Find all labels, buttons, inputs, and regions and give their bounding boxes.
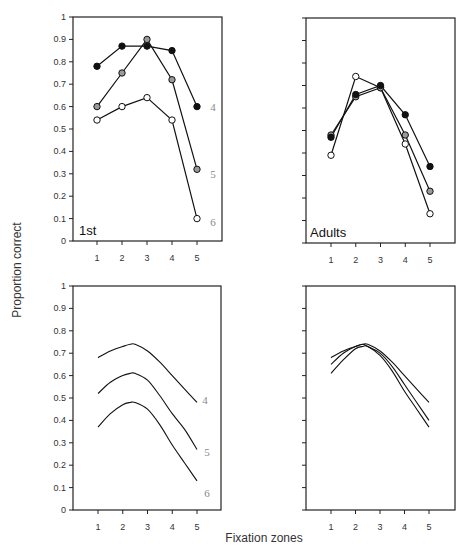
data-point-filled <box>119 43 125 49</box>
series-label-5: 5 <box>210 168 216 180</box>
x-tick-label: 4 <box>170 522 175 532</box>
y-tick-label: 0.5 <box>53 393 66 403</box>
y-tick-label: 0.8 <box>53 57 66 67</box>
y-tick-label: 0.4 <box>53 146 66 156</box>
y-tick-label: 1 <box>61 12 66 22</box>
data-point-filled <box>94 63 100 69</box>
x-tick-label: 1 <box>328 255 333 265</box>
data-point-open <box>353 73 359 79</box>
y-tick-label: 0.5 <box>53 124 66 134</box>
series-line-4 <box>331 86 430 167</box>
y-tick-label: 0.6 <box>53 371 66 381</box>
figure: Proportion correct Fixation zones 00.10.… <box>0 0 469 555</box>
panel-top-right: 12345Adults <box>302 18 455 265</box>
data-point-open <box>328 152 334 158</box>
series-line-5 <box>97 39 197 169</box>
x-tick-label: 1 <box>328 522 333 532</box>
x-tick-label: 4 <box>402 522 407 532</box>
data-point-gray <box>119 70 125 76</box>
y-tick-label: 0.6 <box>53 102 66 112</box>
x-tick-label: 5 <box>427 255 432 265</box>
series-line-5 <box>331 88 430 192</box>
x-tick-label: 1 <box>95 522 100 532</box>
panel-bottom-left: 00.10.20.30.40.50.60.70.80.9112345456 <box>53 281 221 532</box>
data-point-open <box>119 103 125 109</box>
series-line-6 <box>331 77 430 214</box>
data-point-gray <box>194 166 200 172</box>
y-tick-label: 0.3 <box>53 438 66 448</box>
y-tick-label: 0 <box>61 236 66 246</box>
x-tick-label: 3 <box>377 522 382 532</box>
series-label-4: 4 <box>210 101 216 113</box>
plot-frame <box>306 18 455 243</box>
x-tick-label: 2 <box>120 522 125 532</box>
data-point-filled <box>377 82 383 88</box>
series-label-4: 4 <box>202 394 208 406</box>
x-tick-label: 3 <box>378 255 383 265</box>
data-point-gray <box>402 132 408 138</box>
data-point-open <box>427 211 433 217</box>
y-tick-label: 0.9 <box>53 303 66 313</box>
panel-top-left: 00.10.20.30.40.50.60.70.80.91123451st456 <box>53 12 222 263</box>
series-curve-4 <box>331 344 429 403</box>
data-point-open <box>94 117 100 123</box>
panel-title: 1st <box>79 223 97 238</box>
x-tick-label: 4 <box>403 255 408 265</box>
x-tick-label: 5 <box>194 253 199 263</box>
series-label-5: 5 <box>204 446 210 458</box>
y-tick-label: 0.9 <box>53 34 66 44</box>
data-point-filled <box>194 103 200 109</box>
data-point-filled <box>169 47 175 53</box>
data-point-gray <box>94 103 100 109</box>
data-point-filled <box>402 112 408 118</box>
y-tick-label: 0 <box>61 505 66 515</box>
series-curve-4 <box>98 344 197 403</box>
y-tick-label: 0.2 <box>53 460 66 470</box>
plot-frame <box>306 286 455 510</box>
series-curve-6 <box>98 402 197 481</box>
data-point-open <box>169 117 175 123</box>
series-label-6: 6 <box>204 487 210 499</box>
x-tick-label: 2 <box>119 253 124 263</box>
plot-frame <box>73 17 222 241</box>
data-point-filled <box>353 91 359 97</box>
x-tick-label: 3 <box>145 522 150 532</box>
data-point-filled <box>328 134 334 140</box>
y-tick-label: 0.8 <box>53 326 66 336</box>
x-tick-label: 3 <box>144 253 149 263</box>
data-point-gray <box>144 36 150 42</box>
y-tick-label: 0.7 <box>53 79 66 89</box>
y-tick-label: 0.1 <box>53 214 66 224</box>
data-point-filled <box>427 163 433 169</box>
x-tick-label: 5 <box>194 522 199 532</box>
y-tick-label: 0.3 <box>53 169 66 179</box>
data-point-open <box>144 94 150 100</box>
x-tick-label: 2 <box>353 522 358 532</box>
data-point-gray <box>427 188 433 194</box>
x-tick-label: 2 <box>353 255 358 265</box>
y-tick-label: 0.2 <box>53 191 66 201</box>
y-tick-label: 0.4 <box>53 415 66 425</box>
y-tick-label: 1 <box>61 281 66 291</box>
x-tick-label: 1 <box>94 253 99 263</box>
data-point-open <box>402 141 408 147</box>
panel-title: Adults <box>310 225 347 240</box>
data-point-filled <box>144 43 150 49</box>
series-label-6: 6 <box>210 216 216 228</box>
y-axis-label: Proportion correct <box>10 222 24 318</box>
data-point-open <box>194 215 200 221</box>
y-tick-label: 0.1 <box>53 483 66 493</box>
x-axis-label: Fixation zones <box>225 531 302 545</box>
y-tick-label: 0.7 <box>53 348 66 358</box>
panel-bottom-right: 12345 <box>302 286 455 532</box>
x-tick-label: 4 <box>169 253 174 263</box>
x-tick-label: 5 <box>426 522 431 532</box>
data-point-gray <box>169 77 175 83</box>
plot-frame <box>73 286 221 510</box>
